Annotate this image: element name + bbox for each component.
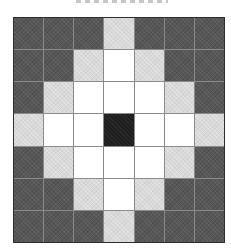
grid-cell-r6c5: [165, 211, 194, 242]
kernel-grid: [13, 17, 225, 243]
grid-cell-r5c4: [135, 179, 164, 210]
grid-cell-r3c3: [104, 114, 133, 145]
grid-cell-r1c6: [195, 50, 224, 81]
grid-cell-r1c4: [135, 50, 164, 81]
grid-cell-r3c6: [195, 114, 224, 145]
grid-cell-r0c0: [14, 18, 43, 49]
grid-cell-r4c1: [44, 147, 73, 178]
grid-cell-r5c3: [104, 179, 133, 210]
grid-cell-r2c5: [165, 82, 194, 113]
grid-cell-r5c5: [165, 179, 194, 210]
grid-cell-r3c5: [165, 114, 194, 145]
grid-cell-r0c6: [195, 18, 224, 49]
grid-cell-r6c4: [135, 211, 164, 242]
grid-cell-r5c1: [44, 179, 73, 210]
grid-cell-r1c5: [165, 50, 194, 81]
grid-cell-r2c1: [44, 82, 73, 113]
grid-cell-r4c3: [104, 147, 133, 178]
grid-cell-r2c6: [195, 82, 224, 113]
grid-cell-r1c0: [14, 50, 43, 81]
grid-cell-r4c0: [14, 147, 43, 178]
grid-cell-r4c5: [165, 147, 194, 178]
grid-cell-r6c6: [195, 211, 224, 242]
grid-cell-r0c2: [74, 18, 103, 49]
grid-cell-r2c3: [104, 82, 133, 113]
grid-cell-r0c5: [165, 18, 194, 49]
grid-cell-r4c2: [74, 147, 103, 178]
grid-cell-r1c1: [44, 50, 73, 81]
figure-canvas: [0, 0, 231, 249]
grid-cell-r0c3: [104, 18, 133, 49]
grid-cell-r5c2: [74, 179, 103, 210]
grid-cell-r6c3: [104, 211, 133, 242]
grid-cell-r1c3: [104, 50, 133, 81]
grid-cell-r3c4: [135, 114, 164, 145]
grid-cell-r2c2: [74, 82, 103, 113]
grid-cell-r2c0: [14, 82, 43, 113]
grid-cell-r3c0: [14, 114, 43, 145]
grid-cell-r6c1: [44, 211, 73, 242]
cropped-title-fragment: [76, 0, 168, 3]
grid-cell-r5c0: [14, 179, 43, 210]
grid-cell-r5c6: [195, 179, 224, 210]
grid-cell-r6c0: [14, 211, 43, 242]
grid-cell-r3c1: [44, 114, 73, 145]
grid-cell-r6c2: [74, 211, 103, 242]
grid-cell-r3c2: [74, 114, 103, 145]
grid-cell-r0c1: [44, 18, 73, 49]
grid-cell-r0c4: [135, 18, 164, 49]
grid-cell-r4c4: [135, 147, 164, 178]
grid-cell-r2c4: [135, 82, 164, 113]
grid-cell-r4c6: [195, 147, 224, 178]
grid-cell-r1c2: [74, 50, 103, 81]
